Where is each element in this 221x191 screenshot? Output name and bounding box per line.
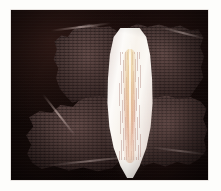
page-canvas — [0, 0, 221, 191]
caption — [11, 181, 208, 190]
scan-line-texture — [11, 10, 208, 180]
specimen-photograph — [11, 10, 208, 180]
